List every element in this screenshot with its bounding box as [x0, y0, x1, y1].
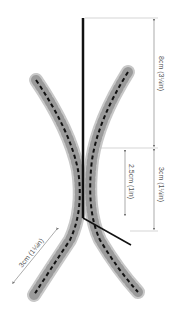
beaded-fork-diagram: 8cm (3¼in) 3cm (1¼in) 2.5cm (1in) 3cm (1… [0, 0, 182, 322]
dimension-top-length: 8cm (3¼in) [154, 20, 165, 146]
dimension-stem-length: 3cm (1¼in) [154, 150, 165, 229]
svg-text:3cm (1¼in): 3cm (1¼in) [157, 167, 165, 202]
svg-text:8cm (3¼in): 8cm (3¼in) [157, 56, 165, 91]
svg-text:3cm (1¼in): 3cm (1¼in) [17, 237, 45, 269]
bead-strand-left [34, 80, 80, 295]
svg-text:2.5cm (1in): 2.5cm (1in) [127, 164, 135, 199]
dimension-twist-length: 2.5cm (1in) [125, 151, 135, 215]
